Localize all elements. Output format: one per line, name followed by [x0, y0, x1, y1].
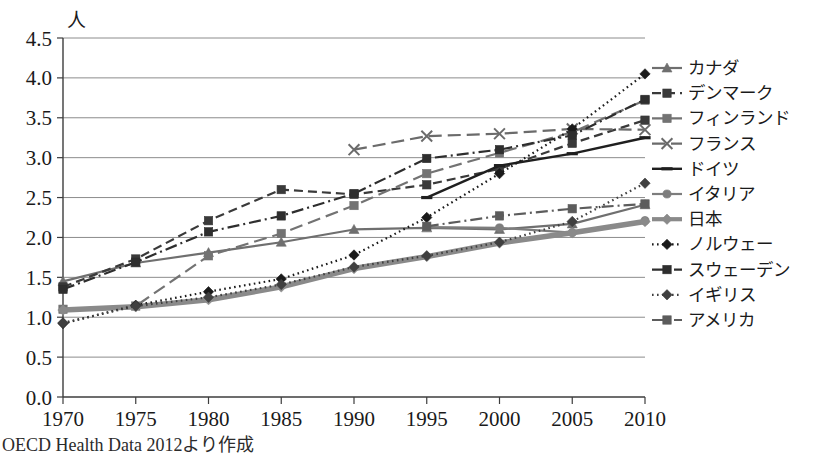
- series-4: [421, 138, 650, 198]
- legend-label: ドイツ: [688, 159, 739, 179]
- x-tick-label: 1980: [188, 407, 230, 431]
- series-marker: [350, 201, 358, 209]
- y-tick-label: 3.0: [26, 146, 52, 170]
- series-marker: [423, 181, 431, 189]
- legend-item-10[interactable]: アメリカ: [652, 310, 755, 330]
- y-tick-label: 2.5: [26, 186, 52, 210]
- series-marker: [640, 216, 650, 226]
- y-tick-label: 3.5: [26, 106, 52, 130]
- series-marker: [641, 95, 649, 103]
- legend-item-6[interactable]: 日本: [652, 209, 722, 229]
- series-marker: [349, 250, 359, 260]
- legend-item-7[interactable]: ノルウェー: [652, 234, 773, 254]
- series-marker: [350, 189, 358, 197]
- y-axis-unit-label: 人: [67, 9, 86, 31]
- x-tick-label: 1990: [333, 407, 375, 431]
- series-marker: [277, 229, 285, 237]
- source-note: OECD Health Data 2012より作成: [2, 430, 254, 453]
- series-marker: [277, 212, 285, 220]
- x-tick-labels: 197019751980198519901995200020052010: [42, 407, 666, 431]
- legend-swatch-marker: [663, 316, 671, 324]
- x-tick-label: 1995: [406, 407, 448, 431]
- legend: カナダデンマークフィンランドフランスドイツイタリア日本ノルウェースウェーデンイギ…: [652, 58, 790, 330]
- x-tick-label: 1985: [260, 407, 302, 431]
- series-marker: [567, 227, 577, 237]
- series-marker: [568, 139, 576, 147]
- x-tick-label: 1970: [42, 407, 84, 431]
- series-marker: [204, 228, 212, 236]
- axes-layer: [57, 38, 645, 404]
- y-tick-labels: 0.00.51.01.52.02.53.03.54.04.5: [26, 27, 52, 410]
- series-line: [427, 138, 645, 198]
- series-marker: [423, 169, 431, 177]
- y-tick-label: 4.0: [26, 66, 52, 90]
- legend-item-0[interactable]: カナダ: [652, 58, 739, 78]
- series-line: [427, 204, 645, 226]
- legend-item-4[interactable]: ドイツ: [652, 159, 739, 179]
- legend-swatch-marker: [663, 190, 671, 198]
- x-tick-label: 2005: [551, 407, 593, 431]
- legend-item-3[interactable]: フランス: [652, 134, 756, 154]
- legend-label: デンマーク: [688, 83, 773, 103]
- legend-item-5[interactable]: イタリア: [652, 184, 755, 204]
- series-marker: [641, 200, 649, 208]
- legend-swatch-marker: [662, 239, 672, 249]
- y-tick-label: 1.0: [26, 306, 52, 330]
- series-marker: [59, 285, 67, 293]
- x-tick-label: 2000: [479, 407, 521, 431]
- legend-label: フランス: [688, 134, 756, 154]
- series-2: [59, 96, 649, 313]
- series-marker: [277, 185, 285, 193]
- series-marker: [641, 116, 649, 124]
- legend-item-8[interactable]: スウェーデン: [652, 260, 790, 280]
- legend-label: 日本: [688, 209, 722, 229]
- series-marker: [640, 178, 650, 188]
- legend-label: スウェーデン: [688, 260, 790, 280]
- legend-label: イギリス: [688, 285, 756, 305]
- x-tick-label: 2010: [624, 407, 666, 431]
- legend-swatch-marker: [663, 89, 671, 97]
- legend-item-2[interactable]: フィンランド: [652, 108, 790, 128]
- series-marker: [204, 252, 212, 260]
- series-marker: [568, 131, 576, 139]
- axis-unit: 人: [67, 9, 86, 31]
- series-marker: [495, 145, 503, 153]
- legend-swatch-marker: [663, 114, 671, 122]
- series-marker: [423, 222, 431, 230]
- legend-label: イタリア: [688, 184, 755, 204]
- legend-label: アメリカ: [688, 310, 755, 330]
- chart-figure: 0.00.51.01.52.02.53.03.54.04.5 197019751…: [0, 0, 817, 453]
- legend-swatch-marker: [663, 265, 671, 273]
- series-marker: [58, 318, 68, 328]
- line-chart: 0.00.51.01.52.02.53.03.54.04.5 197019751…: [0, 0, 817, 453]
- legend-item-1[interactable]: デンマーク: [652, 83, 773, 103]
- series-marker: [132, 258, 140, 266]
- series-marker: [422, 212, 432, 222]
- series-marker: [423, 154, 431, 162]
- legend-label: ノルウェー: [688, 234, 773, 254]
- x-tick-label: 1975: [115, 407, 157, 431]
- series-marker: [495, 212, 503, 220]
- legend-swatch-marker: [662, 290, 672, 300]
- y-tick-label: 0.5: [26, 346, 52, 370]
- y-tick-label: 0.0: [26, 386, 52, 410]
- series-marker: [495, 224, 503, 232]
- legend-label: カナダ: [688, 58, 739, 78]
- y-tick-label: 2.0: [26, 226, 52, 250]
- y-tick-label: 4.5: [26, 27, 52, 51]
- series-marker: [568, 205, 576, 213]
- series-marker: [204, 216, 212, 224]
- series-layer: [58, 69, 651, 329]
- legend-swatch-marker: [662, 214, 672, 224]
- y-tick-label: 1.5: [26, 266, 52, 290]
- legend-item-9[interactable]: イギリス: [652, 285, 756, 305]
- legend-label: フィンランド: [688, 108, 790, 128]
